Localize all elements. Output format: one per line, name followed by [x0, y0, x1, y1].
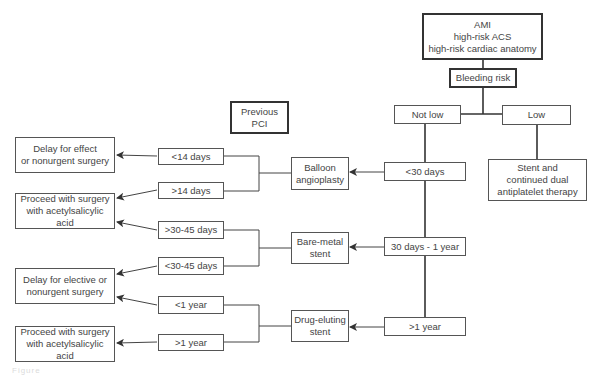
root-condition-label: AMI high-risk ACS high-risk cardiac anat…	[428, 19, 536, 55]
pci-type-bare-metal-box: Bare-metal stent	[291, 232, 349, 264]
interval-label: <14 days	[172, 151, 211, 163]
outcome-box: Delay for effect or nonurgent surgery	[15, 137, 115, 173]
interval-box: <30-45 days	[158, 257, 224, 275]
previous-pci-box: Previous PCI	[230, 101, 289, 134]
interval-label: >1 year	[175, 337, 207, 349]
timing-box-30d-1y: 30 days - 1 year	[384, 237, 466, 256]
outcome-label: Proceed with surgery with acetylsalicyli…	[18, 193, 112, 229]
outcome-label: Proceed with surgery with acetylsalicyli…	[18, 326, 112, 362]
outcome-box: Proceed with surgery with acetylsalicyli…	[15, 193, 115, 229]
interval-label: <1 year	[175, 299, 207, 311]
timing-box-lt30: <30 days	[384, 162, 466, 181]
outcome-label: Delay for effect or nonurgent surgery	[21, 143, 109, 167]
not-low-box: Not low	[394, 105, 461, 124]
low-label: Low	[528, 109, 545, 121]
interval-box: <14 days	[158, 148, 224, 165]
interval-box: >30-45 days	[158, 221, 224, 239]
figure-caption: Figure	[12, 366, 41, 375]
not-low-label: Not low	[412, 109, 444, 121]
low-box: Low	[502, 105, 571, 125]
bleeding-risk-box: Bleeding risk	[449, 68, 517, 88]
timing-label: <30 days	[406, 166, 445, 178]
interval-label: >14 days	[172, 185, 211, 197]
interval-label: >30-45 days	[165, 224, 218, 236]
pci-type-balloon-box: Balloon angioplasty	[291, 157, 349, 190]
interval-box: >14 days	[158, 182, 224, 199]
interval-box: <1 year	[158, 296, 224, 314]
outcome-box: Proceed with surgery with acetylsalicyli…	[15, 326, 115, 362]
interval-label: <30-45 days	[165, 260, 218, 272]
low-outcome-label: Stent and continued dual antiplatelet th…	[497, 162, 577, 198]
pci-type-label: Bare-metal stent	[297, 236, 343, 260]
pci-type-label: Balloon angioplasty	[296, 162, 344, 186]
bleeding-risk-label: Bleeding risk	[456, 72, 510, 84]
pci-type-label: Drug-eluting stent	[294, 314, 346, 338]
interval-box: >1 year	[158, 334, 224, 351]
outcome-box: Delay for elective or nonurgent surgery	[15, 268, 115, 304]
timing-box-gt1y: >1 year	[384, 317, 466, 336]
timing-label: >1 year	[409, 321, 441, 333]
timing-label: 30 days - 1 year	[391, 241, 459, 253]
pci-type-drug-eluting-box: Drug-eluting stent	[291, 310, 349, 342]
root-condition-box: AMI high-risk ACS high-risk cardiac anat…	[422, 13, 543, 60]
low-outcome-box: Stent and continued dual antiplatelet th…	[488, 159, 587, 201]
previous-pci-label: Previous PCI	[241, 106, 278, 130]
outcome-label: Delay for elective or nonurgent surgery	[23, 274, 107, 298]
